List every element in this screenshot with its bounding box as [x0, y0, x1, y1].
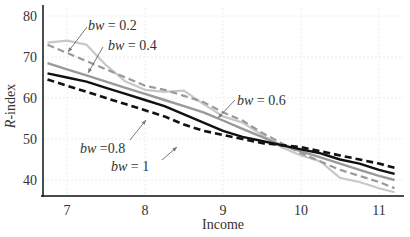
series-line	[48, 63, 395, 180]
annotation-arrowhead-icon	[68, 47, 72, 52]
x-tick-labels: 7891011	[64, 203, 386, 218]
annotation-arrow	[68, 27, 87, 52]
y-tick-label: 50	[23, 132, 37, 147]
x-axis-label: Income	[202, 217, 244, 232]
y-axis-label-rest: -index	[3, 84, 18, 120]
y-tick-label: 40	[23, 173, 37, 188]
r-index-chart: 4050607080 7891011 Income R-index bw = 0…	[0, 0, 410, 237]
annotation-label: bw = 0.2	[88, 18, 137, 33]
x-tick-label: 9	[220, 203, 227, 218]
x-tick-label: 10	[294, 203, 308, 218]
y-tick-label: 60	[23, 91, 37, 106]
annotation-label: bw =0.8	[80, 141, 125, 156]
y-tick-labels: 4050607080	[23, 9, 37, 188]
annotation-label: bw = 0.4	[108, 38, 157, 53]
series-line	[48, 73, 395, 173]
y-axis-label-italic: R	[3, 119, 18, 129]
annotation-label: bw = 0.6	[237, 93, 286, 108]
x-tick-label: 7	[64, 203, 71, 218]
x-tick-label: 8	[142, 203, 149, 218]
y-tick-label: 80	[23, 9, 37, 24]
x-tick-label: 11	[372, 203, 385, 218]
y-tick-label: 70	[23, 50, 37, 65]
y-axis-label: R-index	[3, 84, 18, 129]
annotation-label: bw = 1	[111, 159, 149, 174]
